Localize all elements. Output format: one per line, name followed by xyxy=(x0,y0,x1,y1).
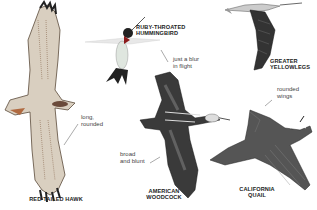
bird-name: RED-TAILED HAWK xyxy=(26,196,86,202)
note-line: wings xyxy=(277,93,299,100)
bird-name: YELLOWLEGS xyxy=(270,64,310,70)
note-line: broad xyxy=(120,151,145,158)
bird-name: HUMMINGBIRD xyxy=(136,30,185,36)
bird-name: QUAIL xyxy=(227,192,287,198)
note-line: in flight xyxy=(173,63,199,70)
note-line: long, xyxy=(81,114,103,121)
note-woodcock: broad and blunt xyxy=(120,151,145,165)
bird-name: WOODCOCK xyxy=(134,194,194,200)
label-american-woodcock: AMERICAN WOODCOCK xyxy=(134,188,194,201)
california-quail-drawing xyxy=(210,110,312,190)
note-hummingbird: just a blur in flight xyxy=(173,56,199,70)
label-red-tailed-hawk: RED-TAILED HAWK xyxy=(26,196,86,202)
note-line: and blunt xyxy=(120,158,145,165)
american-woodcock-drawing xyxy=(140,72,230,198)
label-ruby-throated-hummingbird: RUBY-THROATED HUMMINGBIRD xyxy=(136,24,185,37)
note-hawk: long, rounded xyxy=(81,114,103,128)
note-line: just a blur xyxy=(173,56,199,63)
note-line: rounded xyxy=(81,121,103,128)
bird-wing-shapes-illustration: RED-TAILED HAWK long, rounded RUBY-THROA… xyxy=(0,0,317,210)
label-california-quail: CALIFORNIA QUAIL xyxy=(227,186,287,199)
note-quail: rounded wings xyxy=(277,86,299,100)
red-tailed-hawk-drawing xyxy=(5,2,75,202)
label-greater-yellowlegs: GREATER YELLOWLEGS xyxy=(270,58,310,71)
note-line: rounded xyxy=(277,86,299,93)
